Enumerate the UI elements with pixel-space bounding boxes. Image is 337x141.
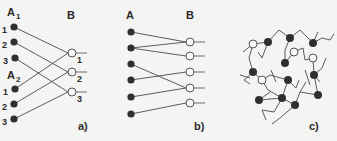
network-bond <box>300 82 306 92</box>
network-node-open <box>309 54 317 62</box>
network-node-filled <box>309 39 317 47</box>
edge <box>131 42 186 48</box>
network-node-open <box>249 40 257 48</box>
network-bond <box>322 38 330 40</box>
b-node-open <box>68 88 76 96</box>
edge <box>15 53 68 89</box>
a-node-filled <box>127 44 134 51</box>
a-node-label: 3 <box>2 117 7 127</box>
network-node-open <box>258 76 266 84</box>
b-node-open <box>68 68 76 76</box>
a-node-filled <box>10 23 17 30</box>
a-node-filled <box>10 115 17 122</box>
b-node-open <box>186 52 194 60</box>
bipartite-diagram: 123123123 A 1 A 2 B a) A B b) c) <box>0 0 337 141</box>
panel-a-label-B: B <box>67 9 75 21</box>
a-node-filled <box>127 28 134 35</box>
b-node-open <box>186 99 194 107</box>
network-node-filled <box>278 94 286 102</box>
edge <box>131 88 186 97</box>
b-node-label: 3 <box>77 94 82 104</box>
a-node-label: 2 <box>2 102 7 112</box>
edge <box>131 72 186 80</box>
network-bond <box>262 110 266 120</box>
a-node-filled <box>127 93 134 100</box>
panel-c <box>240 30 334 124</box>
network-bond <box>258 52 262 58</box>
network-node-filled <box>284 76 292 84</box>
network-bond <box>272 118 280 124</box>
panel-b-label-B: B <box>186 9 194 21</box>
network-bond <box>322 58 326 68</box>
network-node-filled <box>281 59 289 67</box>
edge <box>14 27 68 53</box>
panel-a-label-A2-sub: 2 <box>16 75 21 84</box>
network-bond <box>296 80 299 88</box>
network-node-filled <box>291 101 299 109</box>
a-node-label: 1 <box>3 87 8 97</box>
b-node-open <box>186 68 194 76</box>
network-bond <box>262 110 274 112</box>
network-node-filled <box>310 71 318 79</box>
network-node-filled <box>264 38 272 46</box>
b-node-open <box>68 49 76 57</box>
panel-b-label-A: A <box>126 9 134 21</box>
panel-a-label-A1-sub: 1 <box>16 12 21 21</box>
edge <box>14 72 68 104</box>
panel-a-label-A1: A <box>7 6 15 18</box>
a-node-label: 3 <box>3 56 8 66</box>
network-node-filled <box>255 96 263 104</box>
edge <box>14 42 68 72</box>
a-node-label: 1 <box>2 25 7 35</box>
network-node-filled <box>249 68 257 76</box>
network-bond <box>330 34 334 40</box>
panel-a-label-A2: A <box>7 69 15 81</box>
edge <box>131 103 186 114</box>
network-bond <box>303 48 305 60</box>
edge <box>131 32 186 42</box>
edge <box>15 58 68 92</box>
edge <box>14 92 68 119</box>
a-node-label: 2 <box>2 40 7 50</box>
a-node-filled <box>11 85 18 92</box>
panel-a-caption: a) <box>78 120 88 132</box>
network-node-filled <box>286 34 294 42</box>
panel-b <box>127 28 205 117</box>
panel-c-caption: c) <box>309 120 319 132</box>
edge <box>131 48 186 56</box>
network-node-filled <box>314 91 322 99</box>
b-node-open <box>186 84 194 92</box>
a-node-filled <box>127 76 134 83</box>
a-node-filled <box>10 38 17 45</box>
a-node-filled <box>11 54 18 61</box>
a-node-filled <box>127 110 134 117</box>
a-node-filled <box>127 60 134 67</box>
panel-b-caption: b) <box>194 120 205 132</box>
network-node-open <box>290 48 298 56</box>
b-node-label: 1 <box>77 55 82 65</box>
a-node-filled <box>10 100 17 107</box>
b-node-label: 2 <box>77 74 82 84</box>
b-node-open <box>186 38 194 46</box>
network-bond <box>244 80 250 84</box>
